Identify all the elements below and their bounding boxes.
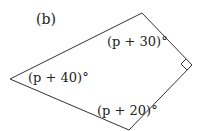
angle-label-top: (p + 30)° [107, 35, 168, 48]
figure-label: (b) [36, 12, 56, 26]
angle-label-left: (p + 40)° [28, 71, 89, 84]
quadrilateral-diagram: (b) (p + 30)° (p + 40)° (p + 20)° [0, 0, 199, 131]
right-angle-marker [181, 59, 187, 70]
angle-label-bottom: (p + 20)° [97, 104, 158, 117]
